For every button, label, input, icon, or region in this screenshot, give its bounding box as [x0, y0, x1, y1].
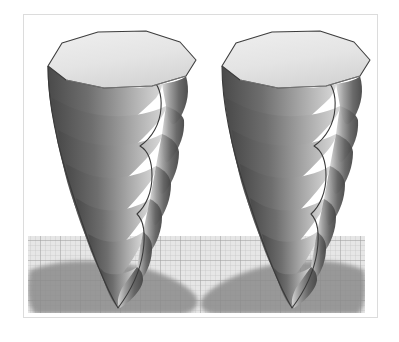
render-canvas [0, 0, 399, 342]
cone-right-top-face [222, 31, 370, 88]
scene-3d [0, 0, 399, 342]
cone-left-top-face [48, 31, 196, 88]
